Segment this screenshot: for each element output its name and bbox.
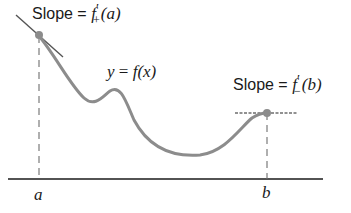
axis-label-b: b — [262, 183, 271, 202]
curve-label: y = f(x) — [105, 62, 157, 81]
slope-b-label: Slope = f′−(b) — [233, 73, 322, 98]
point-a — [35, 31, 43, 39]
one-sided-derivative-diagram: Slope = f′+(a) y = f(x) Slope = f′−(b) a… — [0, 0, 351, 213]
function-curve — [39, 36, 267, 155]
slope-a-label: Slope = f′+(a) — [32, 2, 121, 27]
axis-label-a: a — [34, 185, 43, 204]
point-b — [263, 109, 271, 117]
